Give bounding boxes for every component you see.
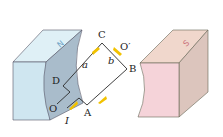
side-b-label: b bbox=[108, 56, 114, 66]
south-magnet-curved-face bbox=[138, 63, 179, 117]
point-c-label: C bbox=[98, 30, 106, 40]
axis-o-label: O bbox=[49, 104, 57, 114]
south-magnet: S bbox=[138, 30, 208, 117]
point-a-label: A bbox=[84, 108, 91, 118]
axis-o-prime-label: O′ bbox=[120, 42, 130, 52]
current-label: I bbox=[65, 116, 69, 126]
point-b-label: B bbox=[129, 64, 136, 74]
generator-diagram: N S bbox=[0, 0, 223, 137]
arrow-icon bbox=[92, 47, 100, 55]
point-d-label: D bbox=[52, 76, 60, 86]
arrow-icon bbox=[98, 96, 107, 104]
side-a-label: a bbox=[82, 60, 88, 70]
